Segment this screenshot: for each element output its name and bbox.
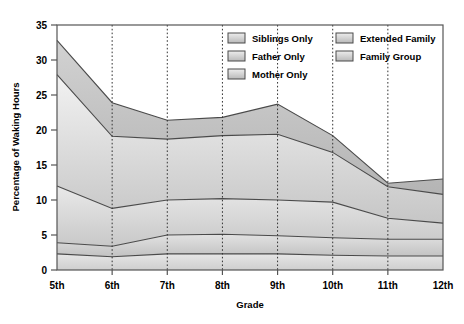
y-tick-label: 15 bbox=[36, 160, 48, 171]
y-tick-label: 35 bbox=[36, 20, 48, 31]
x-axis: 5th6th7th8th9th10th11th12th bbox=[50, 270, 454, 291]
y-tick-label: 0 bbox=[41, 265, 47, 276]
x-tick-label: 5th bbox=[50, 280, 65, 291]
y-tick-label: 10 bbox=[36, 195, 48, 206]
legend-item: Mother Only bbox=[228, 69, 308, 80]
y-axis-title: Percentage of Waking Hours bbox=[10, 83, 21, 212]
y-tick-label: 5 bbox=[41, 230, 47, 241]
chart-canvas: 05101520253035 5th6th7th8th9th10th11th12… bbox=[0, 0, 464, 324]
stacked-area-chart: 05101520253035 5th6th7th8th9th10th11th12… bbox=[0, 0, 464, 324]
x-tick-label: 8th bbox=[215, 280, 230, 291]
legend-label: Family Group bbox=[360, 51, 421, 62]
x-tick-label: 9th bbox=[270, 280, 285, 291]
legend-label: Extended Family bbox=[360, 33, 436, 44]
x-tick-label: 10th bbox=[322, 280, 343, 291]
x-tick-label: 11th bbox=[378, 280, 398, 291]
legend-label: Siblings Only bbox=[252, 33, 313, 44]
legend-item: Family Group bbox=[336, 51, 421, 62]
legend-swatch bbox=[228, 33, 245, 43]
x-tick-label: 6th bbox=[105, 280, 120, 291]
legend-label: Father Only bbox=[252, 51, 306, 62]
legend-swatch bbox=[228, 51, 245, 61]
y-tick-label: 20 bbox=[36, 125, 48, 136]
x-axis-title: Grade bbox=[236, 299, 263, 310]
legend-swatch bbox=[336, 33, 353, 43]
y-tick-label: 30 bbox=[36, 55, 48, 66]
x-tick-label: 7th bbox=[160, 280, 175, 291]
legend-label: Mother Only bbox=[252, 69, 308, 80]
legend-item: Siblings Only bbox=[228, 33, 313, 44]
y-tick-label: 25 bbox=[36, 90, 48, 101]
legend-item: Father Only bbox=[228, 51, 306, 62]
y-axis: 05101520253035 bbox=[36, 20, 57, 276]
legend-swatch bbox=[336, 51, 353, 61]
x-tick-label: 12th bbox=[433, 280, 454, 291]
legend-swatch bbox=[228, 69, 245, 79]
legend-item: Extended Family bbox=[336, 33, 436, 44]
